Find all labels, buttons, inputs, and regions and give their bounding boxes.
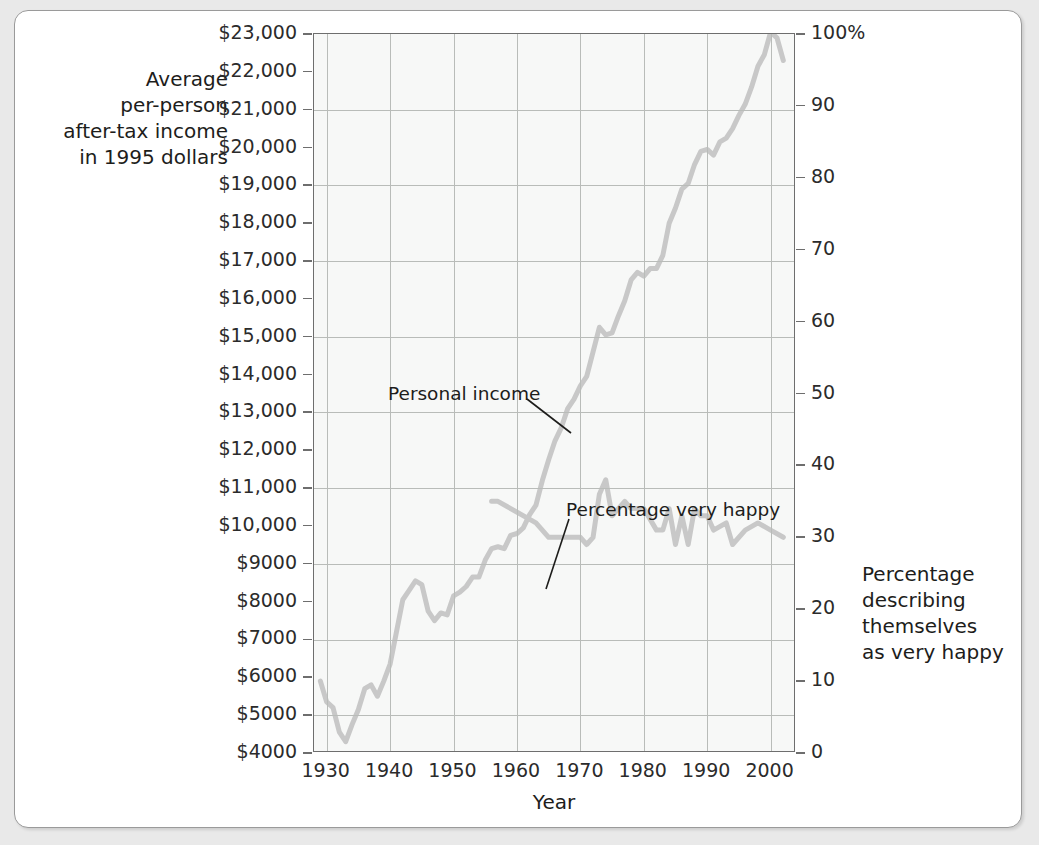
y-axis-left-title-line-3: after-tax income: [28, 118, 228, 144]
y-axis-left-tick-label: $21,000: [218, 99, 297, 118]
y-axis-left-tick-label: $14,000: [218, 364, 297, 383]
x-axis-tick-label: 2000: [740, 761, 800, 780]
y-axis-right-tick-mark: [796, 393, 805, 395]
y-axis-left-tick-mark: [303, 411, 312, 413]
y-axis-right-tick-mark: [796, 321, 805, 323]
y-axis-right-tick-label: 100%: [811, 23, 865, 42]
y-axis-left-tick-label: $4000: [237, 742, 297, 761]
y-axis-left-title-line-1: Average: [28, 66, 228, 92]
y-axis-right-tick-label: 70: [811, 239, 835, 258]
x-axis-title: Year: [313, 790, 795, 814]
x-axis-tick-label: 1950: [423, 761, 483, 780]
y-axis-right-tick-mark: [796, 680, 805, 682]
y-axis-left-tick-mark: [303, 714, 312, 716]
y-axis-right-tick-label: 80: [811, 167, 835, 186]
y-axis-left-tick-mark: [303, 33, 312, 35]
y-axis-left-tick-mark: [303, 449, 312, 451]
y-axis-left-tick-label: $22,000: [218, 61, 297, 80]
y-axis-left-tick-label: $18,000: [218, 212, 297, 231]
gridline-horizontal: [314, 337, 794, 338]
gridline-horizontal: [314, 185, 794, 186]
y-axis-left-tick-mark: [303, 298, 312, 300]
gridline-vertical: [707, 34, 708, 751]
plot-inner: [314, 34, 794, 751]
y-axis-right-tick-mark: [796, 177, 805, 179]
y-axis-left-tick-label: $8000: [237, 591, 297, 610]
y-axis-left-tick-label: $7000: [237, 628, 297, 647]
gridline-vertical: [644, 34, 645, 751]
y-axis-left-tick-mark: [303, 71, 312, 73]
y-axis-left-tick-mark: [303, 676, 312, 678]
y-axis-left-tick-label: $5000: [237, 704, 297, 723]
y-axis-left-tick-mark: [303, 601, 312, 603]
y-axis-right-tick-label: 20: [811, 598, 835, 617]
gridline-horizontal: [314, 715, 794, 716]
x-axis-tick-label: 1980: [613, 761, 673, 780]
y-axis-right-title-line-2: describing: [862, 587, 1027, 613]
y-axis-left-tick-label: $11,000: [218, 477, 297, 496]
series-layer: [314, 34, 794, 751]
y-axis-right-title-line-4: as very happy: [862, 639, 1027, 665]
gridline-vertical: [580, 34, 581, 751]
plot-area: [313, 33, 795, 752]
y-axis-left-tick-label: $19,000: [218, 174, 297, 193]
y-axis-right-tick-mark: [796, 464, 805, 466]
y-axis-left-tick-mark: [303, 147, 312, 149]
y-axis-left-tick-label: $20,000: [218, 137, 297, 156]
gridline-vertical: [771, 34, 772, 751]
y-axis-left-tick-mark: [303, 525, 312, 527]
gridline-horizontal: [314, 564, 794, 565]
gridline-vertical: [327, 34, 328, 751]
y-axis-left-tick-mark: [303, 487, 312, 489]
y-axis-left-tick-mark: [303, 752, 312, 754]
y-axis-left-tick-label: $17,000: [218, 250, 297, 269]
y-axis-left-tick-label: $16,000: [218, 288, 297, 307]
y-axis-right-tick-mark: [796, 105, 805, 107]
x-axis-tick-label: 1970: [549, 761, 609, 780]
y-axis-right-title: Percentage describing themselves as very…: [862, 561, 1027, 665]
y-axis-left-tick-label: $10,000: [218, 515, 297, 534]
y-axis-left-tick-mark: [303, 563, 312, 565]
y-axis-left-tick-label: $15,000: [218, 326, 297, 345]
x-axis-tick-label: 1940: [359, 761, 419, 780]
y-axis-left-title-line-2: per-person: [28, 92, 228, 118]
gridline-horizontal: [314, 261, 794, 262]
y-axis-left-title: Average per-person after-tax income in 1…: [28, 66, 228, 170]
annotation-percentage-very-happy: Percentage very happy: [566, 501, 780, 520]
y-axis-left-tick-mark: [303, 336, 312, 338]
y-axis-left-tick-mark: [303, 109, 312, 111]
y-axis-left-title-line-4: in 1995 dollars: [28, 144, 228, 170]
x-axis-tick-label: 1960: [486, 761, 546, 780]
y-axis-left-tick-mark: [303, 260, 312, 262]
x-axis-tick-label: 1990: [676, 761, 736, 780]
y-axis-left-tick-mark: [303, 222, 312, 224]
x-axis-tick-label: 1930: [296, 761, 356, 780]
y-axis-left-tick-mark: [303, 184, 312, 186]
y-axis-left-tick-label: $13,000: [218, 401, 297, 420]
gridline-horizontal: [314, 110, 794, 111]
y-axis-left-tick-mark: [303, 639, 312, 641]
y-axis-right-tick-label: 90: [811, 95, 835, 114]
chart-canvas: Average per-person after-tax income in 1…: [0, 0, 1039, 845]
y-axis-right-tick-label: 30: [811, 526, 835, 545]
y-axis-right-tick-mark: [796, 752, 805, 754]
y-axis-left-tick-label: $6000: [237, 666, 297, 685]
y-axis-left-tick-label: $12,000: [218, 439, 297, 458]
y-axis-right-tick-mark: [796, 33, 805, 35]
gridline-horizontal: [314, 412, 794, 413]
annotation-personal-income: Personal income: [388, 385, 540, 404]
y-axis-right-tick-mark: [796, 536, 805, 538]
gridline-horizontal: [314, 488, 794, 489]
y-axis-right-tick-label: 10: [811, 670, 835, 689]
y-axis-right-tick-label: 0: [811, 742, 823, 761]
y-axis-left-tick-label: $9000: [237, 553, 297, 572]
gridline-horizontal: [314, 640, 794, 641]
y-axis-right-title-line-1: Percentage: [862, 561, 1027, 587]
y-axis-right-tick-mark: [796, 608, 805, 610]
y-axis-left-tick-mark: [303, 374, 312, 376]
y-axis-right-tick-label: 60: [811, 311, 835, 330]
y-axis-right-tick-label: 50: [811, 383, 835, 402]
y-axis-right-tick-mark: [796, 249, 805, 251]
y-axis-left-tick-label: $23,000: [218, 23, 297, 42]
page-background: Average per-person after-tax income in 1…: [0, 0, 1039, 845]
